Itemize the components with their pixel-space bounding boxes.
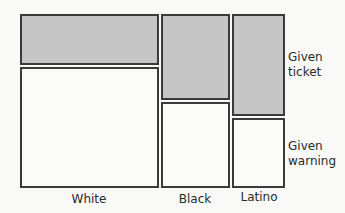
cell-white-ticket [20,14,159,65]
row-label-warning: Given warning [288,139,336,169]
row-label-ticket-line2: ticket [288,65,323,80]
column-label-white: White [72,192,107,206]
cell-black-warning [161,102,230,188]
row-label-warning-line2: warning [288,154,336,169]
row-label-ticket: Given ticket [288,50,323,80]
cell-black-ticket [161,14,230,100]
cell-latino-ticket [232,14,285,116]
cell-white-warning [20,67,159,188]
cell-latino-warning [232,118,285,188]
column-label-black: Black [179,192,211,206]
row-label-ticket-line1: Given [288,50,323,65]
row-label-warning-line1: Given [288,139,336,154]
column-label-latino: Latino [240,190,277,204]
